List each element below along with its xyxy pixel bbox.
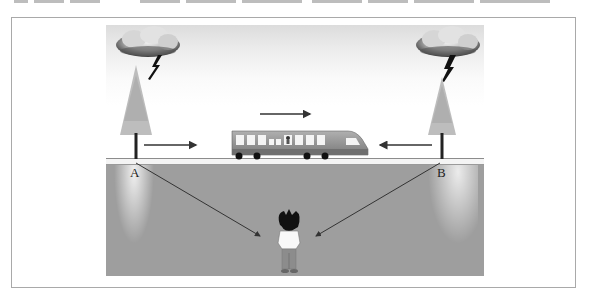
storm-cloud-left-icon: [116, 26, 180, 57]
scene-drawing: [106, 25, 484, 276]
lightning-bolt-left-icon: [148, 55, 162, 80]
sightline-a-to-observer: [136, 163, 260, 236]
lightning-bolt-right-icon: [442, 55, 456, 82]
sightline-b-to-observer: [316, 163, 440, 236]
physics-scene: A B: [106, 25, 484, 276]
pine-tree-right-icon: [428, 77, 456, 159]
observer-boy-icon: [278, 209, 300, 273]
cropped-caption-text: [14, 0, 574, 4]
train-icon: [232, 131, 368, 160]
label-a: A: [130, 165, 139, 181]
storm-cloud-right-icon: [416, 26, 480, 57]
label-b: B: [437, 165, 446, 181]
